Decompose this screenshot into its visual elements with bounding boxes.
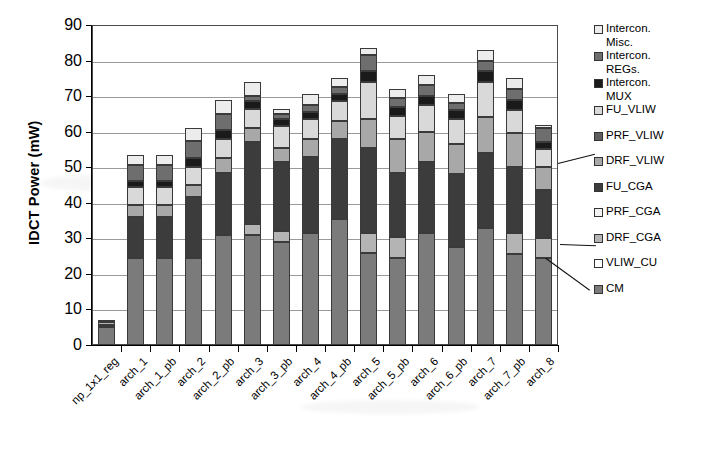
bar-segment-intercon-mux bbox=[506, 100, 523, 111]
bar-segment-intercon-misc- bbox=[448, 94, 465, 103]
bar-segment-intercon-regs- bbox=[331, 87, 348, 94]
bar-segment-drf-vliw bbox=[506, 133, 523, 167]
bar-segment-fu-vliw bbox=[273, 126, 290, 147]
legend-item[interactable]: VLIW_CU bbox=[594, 256, 707, 270]
bar-segment-intercon-regs- bbox=[506, 89, 523, 100]
bar-segment-intercon-mux bbox=[302, 112, 319, 119]
legend-item[interactable]: PRF_CGA bbox=[594, 205, 707, 219]
y-tick-label: 30 bbox=[40, 229, 82, 247]
legend-item[interactable]: DRF_VLIW bbox=[594, 154, 707, 168]
legend-item[interactable]: PRF_VLIW bbox=[594, 129, 707, 143]
bar-segment-intercon-mux bbox=[127, 181, 144, 186]
bar-arch_1_pb[interactable] bbox=[156, 25, 173, 345]
y-tick-mark bbox=[86, 203, 92, 204]
bar-segment-drf-cga bbox=[98, 322, 115, 325]
x-tick-mark bbox=[354, 346, 355, 352]
bar-segment-cm bbox=[302, 233, 319, 345]
bar-segment-fu-vliw bbox=[302, 119, 319, 139]
bar-segment-fu-cga bbox=[302, 157, 319, 233]
x-tick-mark bbox=[150, 346, 151, 352]
bar-segment-cm bbox=[273, 242, 290, 345]
bar-segment-fu-vliw bbox=[506, 110, 523, 133]
bar-segment-cm bbox=[418, 233, 435, 345]
bar-segment-intercon-misc- bbox=[331, 78, 348, 87]
legend-item[interactable]: FU_VLIW bbox=[594, 103, 707, 117]
bar-segment-fu-vliw bbox=[331, 101, 348, 121]
legend-swatch-icon bbox=[594, 106, 603, 115]
bar-segment-fu-cga bbox=[477, 153, 494, 228]
bar-segment-intercon-mux bbox=[535, 142, 552, 149]
x-tick-mark bbox=[209, 346, 210, 352]
x-tick-mark bbox=[179, 346, 180, 352]
bar-segment-drf-vliw bbox=[448, 144, 465, 174]
bar-np_1x1_reg[interactable] bbox=[98, 25, 115, 345]
bar-segment-intercon-regs- bbox=[185, 141, 202, 159]
x-tick-label: np_1x1_reg bbox=[69, 355, 120, 406]
legend-swatch-icon bbox=[594, 234, 603, 243]
bar-segment-drf-vliw bbox=[127, 205, 144, 217]
bar-segment-intercon-regs- bbox=[535, 128, 552, 142]
y-tick-label: 50 bbox=[40, 158, 82, 176]
bar-segment-cm bbox=[185, 258, 202, 345]
bar-segment-intercon-misc- bbox=[215, 100, 232, 114]
x-tick-mark bbox=[296, 346, 297, 352]
bar-arch_5_pb[interactable] bbox=[389, 25, 406, 345]
bar-segment-fu-vliw bbox=[418, 105, 435, 132]
bar-segment-intercon-regs- bbox=[389, 98, 406, 107]
legend-swatch-icon bbox=[594, 208, 603, 217]
bar-arch_2_pb[interactable] bbox=[215, 25, 232, 345]
bar-arch_6_pb[interactable] bbox=[448, 25, 465, 345]
legend-item[interactable]: Intercon. REGs. bbox=[594, 49, 707, 76]
bar-segment-cm bbox=[244, 235, 261, 345]
legend-swatch-icon bbox=[594, 52, 603, 61]
chart-legend: Intercon. Misc.Intercon. REGs.Intercon. … bbox=[594, 22, 707, 307]
bar-arch_7_pb[interactable] bbox=[506, 25, 523, 345]
bar-segment-fu-cga bbox=[215, 173, 232, 235]
bar-segment-cm bbox=[448, 247, 465, 345]
bar-arch_4_pb[interactable] bbox=[331, 25, 348, 345]
x-tick-mark bbox=[383, 346, 384, 352]
bar-arch_5[interactable] bbox=[360, 25, 377, 345]
bar-segment-cm bbox=[127, 258, 144, 345]
bar-segment-drf-cga bbox=[360, 233, 377, 253]
bar-arch_4[interactable] bbox=[302, 25, 319, 345]
bar-arch_3[interactable] bbox=[244, 25, 261, 345]
legend-item[interactable]: DRF_CGA bbox=[594, 231, 707, 245]
x-tick-label: arch_8 bbox=[524, 355, 557, 388]
bar-segment-cm bbox=[477, 228, 494, 345]
bar-arch_3_pb[interactable] bbox=[273, 25, 290, 345]
bar-arch_1[interactable] bbox=[127, 25, 144, 345]
bar-segment-intercon-mux bbox=[331, 94, 348, 101]
leader-line-prf-cga bbox=[560, 244, 596, 246]
bar-arch_7[interactable] bbox=[477, 25, 494, 345]
bar-segment-intercon-mux bbox=[418, 96, 435, 105]
chart-root: IDCT Power (mW) 9080706050403020100 np_1… bbox=[0, 0, 709, 459]
legend-item[interactable]: Intercon. Misc. bbox=[594, 22, 707, 49]
bar-segment-drf-vliw bbox=[535, 167, 552, 190]
bar-segment-cm bbox=[98, 327, 115, 345]
bar-segment-drf-vliw bbox=[418, 132, 435, 162]
legend-label: DRF_CGA bbox=[606, 231, 661, 245]
bar-segment-intercon-mux bbox=[273, 119, 290, 126]
legend-swatch-icon bbox=[594, 157, 603, 166]
legend-item[interactable]: FU_CGA bbox=[594, 180, 707, 194]
leader-line-prf-vliw bbox=[558, 154, 595, 164]
bar-segment-intercon-regs- bbox=[360, 55, 377, 71]
legend-item[interactable]: Intercon. MUX bbox=[594, 76, 707, 103]
bar-arch_2[interactable] bbox=[185, 25, 202, 345]
legend-label: Intercon. Misc. bbox=[606, 22, 651, 49]
bar-segment-cm bbox=[331, 219, 348, 345]
bar-arch_6[interactable] bbox=[418, 25, 435, 345]
legend-label: Intercon. MUX bbox=[606, 76, 651, 103]
bar-segment-drf-vliw bbox=[273, 148, 290, 162]
bar-segment-fu-cga bbox=[448, 174, 465, 247]
bar-arch_8[interactable] bbox=[535, 25, 552, 345]
bar-segment-fu-vliw bbox=[185, 167, 202, 185]
x-tick-mark bbox=[442, 346, 443, 352]
bar-segment-drf-vliw bbox=[360, 119, 377, 147]
legend-item[interactable]: CM bbox=[594, 282, 707, 296]
bar-segment-fu-vliw bbox=[389, 116, 406, 139]
legend-label: DRF_VLIW bbox=[606, 154, 664, 168]
y-tick-mark bbox=[86, 132, 92, 133]
y-tick-label: 0 bbox=[40, 336, 82, 354]
